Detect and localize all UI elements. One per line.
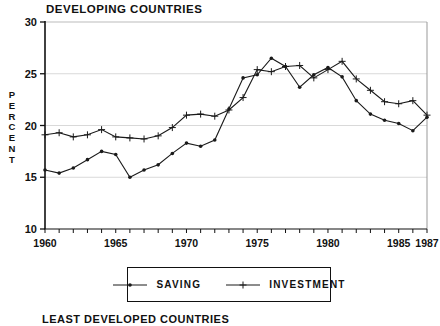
dot-marker (270, 56, 274, 60)
chart-page: DEVELOPING COUNTRIES PERCENT 30252015101… (0, 0, 440, 326)
x-tick-label: 1980 (316, 237, 340, 249)
legend: SAVINGINVESTMENT (127, 267, 331, 302)
plus-marker (282, 63, 289, 70)
x-tick-label: 1960 (33, 237, 57, 249)
plus-marker (84, 131, 91, 138)
dot-marker (241, 76, 245, 80)
dot-marker (255, 73, 259, 77)
plus-marker (42, 131, 49, 138)
x-axis: 1960196519701975198019851987 (33, 229, 439, 249)
y-tick-label: 15 (25, 171, 37, 183)
legend-plus-marker-icon (225, 280, 261, 290)
dot-marker (57, 171, 61, 175)
plus-marker (98, 126, 105, 133)
plus-marker (324, 66, 331, 73)
series-line-saving (45, 58, 427, 177)
plus-marker (141, 135, 148, 142)
x-tick-label: 1970 (175, 237, 199, 249)
x-tick-label: 1987 (415, 237, 439, 249)
series-line-investment (45, 61, 427, 139)
chart-canvas: 30252015101960196519701975198019851987 (0, 0, 440, 262)
legend-label: SAVING (156, 279, 201, 290)
dot-marker (411, 129, 415, 133)
dot-marker (86, 158, 90, 162)
plus-marker (56, 129, 63, 136)
dot-marker (71, 166, 75, 170)
plus-marker (395, 100, 402, 107)
x-tick-label: 1985 (387, 237, 411, 249)
dot-marker (156, 163, 160, 167)
series-saving (43, 56, 429, 179)
dot-marker (213, 138, 217, 142)
y-tick-label: 25 (25, 68, 37, 80)
x-tick-label: 1965 (104, 237, 128, 249)
legend-item-investment: INVESTMENT (225, 279, 345, 290)
dot-marker (128, 175, 132, 179)
dot-marker (185, 141, 189, 145)
dot-marker (397, 122, 401, 126)
series-investment (42, 58, 431, 143)
y-axis: 3025201510 (25, 16, 45, 235)
plus-marker (70, 133, 77, 140)
legend-dot-marker-icon (112, 280, 148, 290)
y-tick-label: 30 (25, 16, 37, 28)
dot-marker (142, 168, 146, 172)
dot-marker (171, 152, 175, 156)
dot-marker (43, 168, 47, 172)
dot-marker (298, 85, 302, 89)
plus-marker (126, 134, 133, 141)
plus-marker (197, 111, 204, 118)
plus-marker (211, 113, 218, 120)
dot-marker (199, 144, 203, 148)
dot-marker (383, 119, 387, 123)
y-tick-label: 20 (25, 120, 37, 132)
plus-marker (155, 132, 162, 139)
dot-marker (369, 112, 373, 116)
dot-marker (340, 75, 344, 79)
dot-marker (354, 99, 358, 103)
x-tick-label: 1975 (246, 237, 270, 249)
y-tick-label: 10 (25, 223, 37, 235)
legend-label: INVESTMENT (269, 279, 345, 290)
legend-item-saving: SAVING (112, 279, 201, 290)
plus-marker (112, 133, 119, 140)
dot-marker (114, 153, 118, 157)
dot-marker (100, 150, 104, 154)
next-section-title: LEAST DEVELOPED COUNTRIES (42, 313, 229, 325)
